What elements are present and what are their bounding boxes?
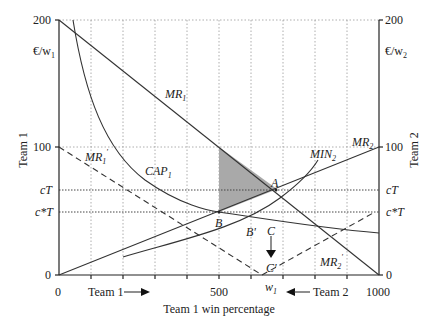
point-A-label: A [270,176,279,190]
MR2-label: MR2 [351,135,373,151]
right-tick-200: 200 [385,13,403,27]
x-tick-1000: 1000 [366,285,390,299]
left-tick-100: 100 [33,140,51,154]
team2-arrow-head [286,288,295,296]
MR1-prime-label: MR1' [84,148,108,166]
right-axis-title: Team 2 [407,132,421,167]
C-arrow-head [266,250,276,258]
point-Cprime-label: C' [266,261,277,275]
right-cT-label: cT [386,183,399,197]
left-tick-0: 0 [45,268,51,282]
x-axis-title: Team 1 win percentage [163,302,274,316]
w1-label: w1 [265,280,277,296]
point-B-marker [218,211,221,214]
left-axis-title: Team 1 [16,132,30,167]
point-C-label: C [267,224,276,238]
x-tick-0: 0 [55,285,61,299]
left-tick-200: 200 [33,13,51,27]
point-Bprime-label: B' [246,225,256,239]
economics-diagram: 200 100 0 €/w1 Team 1 cT c*T 200 100 0 €… [0,0,438,329]
team2-direction-label: Team 2 [313,285,348,299]
CAP1-label: CAP1 [145,164,172,180]
MIN2-label: MIN2 [309,147,336,163]
team1-direction-label: Team 1 [88,285,123,299]
point-B-label: B [215,216,223,230]
left-unit-label: €/w1 [33,44,55,60]
right-cstarT-label: c*T [386,205,405,219]
right-tick-0: 0 [386,268,392,282]
team1-arrow-head [141,288,150,296]
right-tick-100: 100 [385,140,403,154]
right-unit-label: €/w2 [385,44,407,60]
MR1-label: MR1 [164,87,186,103]
shaded-surplus-area [219,147,277,212]
left-cstarT-label: c*T [35,205,54,219]
MR2-prime-label: MR2' [319,253,343,271]
diagram-canvas: 200 100 0 €/w1 Team 1 cT c*T 200 100 0 €… [0,0,438,329]
left-cT-label: cT [40,183,53,197]
x-tick-500: 500 [210,285,228,299]
